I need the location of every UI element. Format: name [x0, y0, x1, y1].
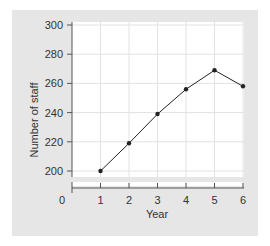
y-axis-title: Number of staff	[28, 82, 40, 158]
x-tick-label: 6	[240, 194, 246, 206]
y-tick-label: 280	[45, 48, 63, 60]
axis-break-band	[72, 177, 244, 182]
x-tick-label: 0	[59, 194, 65, 206]
y-tick-label: 260	[45, 77, 63, 89]
x-tick-label: 1	[97, 194, 103, 206]
y-tick-label: 300	[45, 19, 63, 31]
x-axis-title: Year	[146, 208, 169, 220]
x-tick-label: 4	[183, 194, 189, 206]
data-point	[184, 87, 188, 91]
x-tick-label: 3	[154, 194, 160, 206]
data-point	[212, 68, 216, 72]
data-point	[98, 169, 102, 173]
y-tick-label: 240	[45, 107, 63, 119]
y-tick-label: 220	[45, 136, 63, 148]
data-point	[155, 112, 159, 116]
x-tick-label: 2	[126, 194, 132, 206]
y-tick-label: 200	[45, 165, 63, 177]
data-point	[127, 141, 131, 145]
data-point	[241, 84, 245, 88]
line-chart: 2002202402602803000123456 Year Number of…	[0, 0, 270, 246]
x-tick-label: 5	[211, 194, 217, 206]
